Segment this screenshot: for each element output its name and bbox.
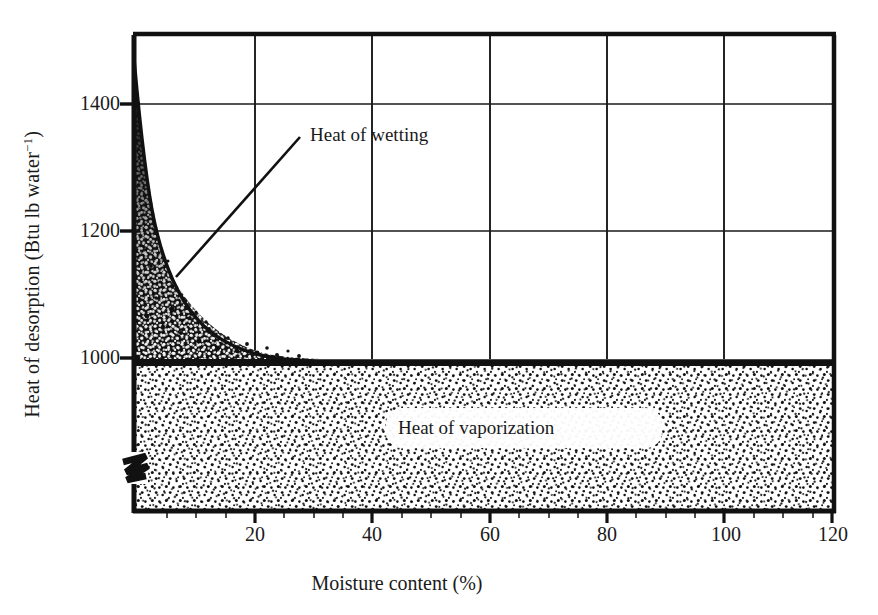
y-tick-labels: 1400 1200 1000: [28, 0, 120, 615]
x-tick-label-60: 60: [450, 523, 530, 546]
x-tick-label-40: 40: [332, 523, 412, 546]
x-axis-title-text: Moisture content (%): [311, 572, 482, 594]
x-tick-label-80: 80: [567, 523, 647, 546]
figure-root: Heat of desorption (Btu lb water−1) 1400…: [0, 0, 878, 615]
x-tick-label-20: 20: [215, 523, 295, 546]
x-tick-label-100: 100: [686, 523, 766, 546]
y-tick-label-1200: 1200: [30, 220, 120, 240]
y-tick-label-1000: 1000: [30, 347, 120, 367]
x-axis-title: Moisture content (%): [0, 572, 878, 595]
y-tick-label-1400: 1400: [30, 93, 120, 113]
x-tick-label-120: 120: [793, 523, 873, 546]
y-axis-break-symbol: [122, 452, 148, 484]
annotation-heat-of-vaporization: Heat of vaporization: [398, 417, 554, 439]
annotation-heat-of-wetting: Heat of wetting: [310, 124, 428, 146]
